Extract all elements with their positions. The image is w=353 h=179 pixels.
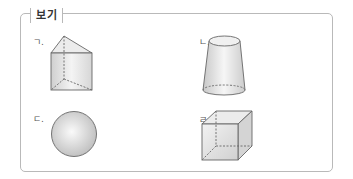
shapes-canvas xyxy=(0,0,353,179)
truncated-cone-icon xyxy=(203,36,245,95)
cube-icon xyxy=(202,111,252,160)
triangular-prism-icon xyxy=(51,36,92,90)
sphere-icon xyxy=(52,112,97,157)
